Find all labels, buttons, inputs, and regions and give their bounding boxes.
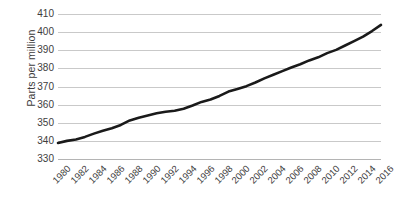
y-tick-label-370: 370 [0, 82, 54, 92]
data-series-line [58, 14, 381, 159]
y-tick-label-360: 360 [0, 100, 54, 110]
co2-series-path [58, 25, 381, 143]
y-axis-tick-labels: 410400390380370360350340330 [0, 0, 54, 203]
y-tick-label-390: 390 [0, 45, 54, 55]
y-tick-label-330: 330 [0, 154, 54, 164]
y-tick-label-340: 340 [0, 136, 54, 146]
y-tick-label-410: 410 [0, 9, 54, 19]
y-tick-label-400: 400 [0, 27, 54, 37]
line-chart: Parts per million 4104003903803703603503… [0, 0, 396, 203]
y-tick-label-350: 350 [0, 118, 54, 128]
y-tick-label-380: 380 [0, 63, 54, 73]
x-axis-tick-labels: 1980198219841986198819901992199419961998… [58, 159, 381, 203]
plot-area [58, 14, 381, 159]
